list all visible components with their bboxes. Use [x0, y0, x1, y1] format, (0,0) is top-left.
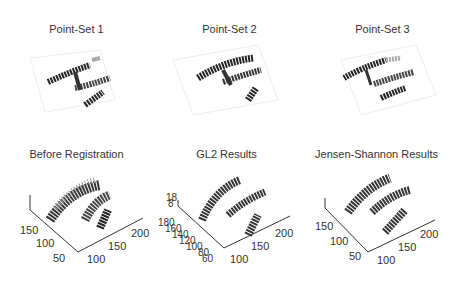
- x-tick: 100: [87, 253, 105, 265]
- x-tick: 200: [275, 227, 293, 239]
- y-tick: 100: [36, 237, 54, 249]
- plot-before-registration: Before Registration 150 100 50 100 150 2…: [0, 140, 153, 280]
- plot-gl2-results: GL2 Results 18 8 180 160 140 120 100 80 …: [150, 140, 303, 280]
- plot-jensen-shannon-results: Jensen-Shannon Results 150 100 50 100 15…: [300, 140, 453, 280]
- y-tick: 50: [53, 252, 65, 264]
- scatter-3d: [0, 140, 153, 280]
- y-tick: 60: [202, 253, 213, 264]
- y-tick: 150: [315, 220, 333, 232]
- x-tick: 100: [230, 253, 248, 265]
- y-tick: 150: [20, 224, 38, 236]
- plot-point-set-1: Point-Set 1: [0, 0, 153, 140]
- x-tick: 150: [108, 240, 126, 252]
- y-tick: 100: [330, 235, 348, 247]
- x-tick: 200: [420, 228, 438, 240]
- z-tick: 8: [168, 198, 174, 209]
- plot-point-set-2: Point-Set 2: [153, 0, 306, 140]
- scatter-3d: [153, 0, 306, 140]
- x-tick: 100: [377, 254, 395, 266]
- plot-point-set-3: Point-Set 3: [306, 0, 459, 140]
- x-tick: 150: [398, 241, 416, 253]
- y-tick: 50: [349, 250, 361, 262]
- scatter-3d: [150, 140, 303, 280]
- scatter-3d: [306, 0, 459, 140]
- x-tick: 150: [251, 240, 269, 252]
- x-tick: 200: [131, 227, 149, 239]
- scatter-3d: [0, 0, 153, 140]
